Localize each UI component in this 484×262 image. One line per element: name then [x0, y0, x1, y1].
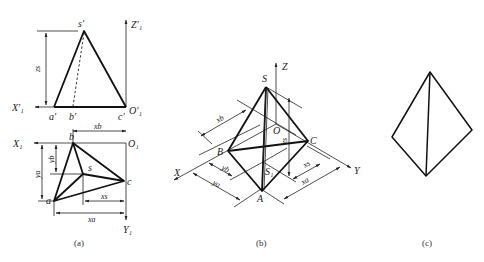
aux-line-s-top: [266, 87, 302, 108]
caption-c: (c): [422, 238, 432, 248]
label-yb: yb: [47, 155, 56, 164]
label-zs: zs: [280, 138, 289, 145]
panel-a-front-view: s′ Z′₁ X′₁ a′ b′ c′ O′₁ zs: [11, 18, 142, 122]
label-B: B: [217, 146, 223, 157]
label-y1: Y₁: [123, 224, 132, 235]
label-c: c: [127, 176, 132, 187]
caption-a: (a): [74, 238, 84, 248]
label-x1: X₁: [12, 138, 23, 149]
label-s: s: [88, 162, 92, 173]
aux-line-s1-x: [230, 162, 263, 180]
y-axis: [276, 124, 351, 168]
label-ya: ya: [210, 177, 222, 189]
label-o1: O₁: [128, 138, 139, 149]
label-C: C: [310, 135, 317, 146]
aux-line-s1: [263, 148, 287, 162]
label-xs: xs: [100, 192, 108, 201]
label-xa: xa: [87, 215, 96, 224]
label-yb: yb: [219, 162, 231, 174]
label-zs: zs: [33, 66, 42, 73]
figure-canvas: s′ Z′₁ X′₁ a′ b′ c′ O′₁ zs: [0, 0, 484, 262]
label-a: a: [46, 195, 51, 206]
front-triangle: [54, 31, 126, 107]
xa-dimension: [284, 167, 340, 199]
label-X: X: [173, 167, 181, 178]
label-o1-prime: O′₁: [129, 105, 142, 116]
label-x1-prime: X′₁: [11, 102, 24, 113]
label-O: O: [273, 125, 280, 136]
label-A: A: [256, 193, 264, 204]
pyramid-front-edge: [426, 72, 430, 176]
label-xb: xb: [93, 122, 102, 131]
aux-line-c: [307, 146, 330, 159]
label-b-prime: b′: [69, 111, 77, 122]
aux-line-a-y: [261, 189, 284, 204]
panel-a-top-view: X₁ b O₁ s c a Y₁ xb yb ya xs xa: [12, 122, 139, 235]
label-c-prime: c′: [118, 111, 125, 122]
label-ya: ya: [33, 170, 42, 179]
label-s-prime: s′: [78, 18, 85, 29]
label-xb: xb: [214, 113, 226, 125]
label-b: b: [69, 131, 74, 142]
panel-b-axonometric: S Z O C B S₁ A X Y xb yb ya zs xs xa: [173, 61, 361, 207]
label-Y: Y: [354, 165, 361, 176]
label-xa: xa: [299, 175, 311, 187]
pyramid-outline: [392, 72, 472, 176]
caption-b: (b): [256, 238, 267, 248]
label-xs: xs: [301, 159, 312, 171]
edge-SB: [228, 87, 266, 151]
panel-c-pyramid: [392, 72, 472, 176]
xb-ext: [198, 131, 212, 144]
label-a-prime: a′: [49, 111, 57, 122]
label-z1-prime: Z′₁: [131, 19, 142, 30]
label-Z: Z: [282, 61, 288, 72]
label-S1: S₁: [265, 166, 273, 177]
label-S: S: [262, 73, 267, 84]
